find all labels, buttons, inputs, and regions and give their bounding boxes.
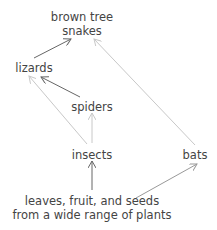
node-label-line: bats: [183, 148, 208, 162]
arrow-spiders-to-lizards: [41, 77, 80, 97]
node-brown-tree-snakes: brown tree snakes: [51, 10, 113, 38]
node-lizards: lizards: [15, 61, 52, 75]
node-label-line: brown tree: [51, 10, 113, 24]
arrow-bats-to-snakes: [94, 39, 195, 145]
node-spiders: spiders: [71, 100, 113, 114]
node-label-line: snakes: [51, 24, 113, 38]
node-label-line: lizards: [15, 61, 52, 75]
node-label-line: leaves, fruit, and seeds: [13, 194, 172, 208]
node-label-line: spiders: [71, 100, 113, 114]
node-insects: insects: [72, 148, 112, 162]
arrow-lizards-to-snakes: [34, 39, 71, 58]
node-label-line: insects: [72, 148, 112, 162]
arrow-plants-to-bats: [136, 164, 197, 198]
node-label-line: from a wide range of plants: [13, 208, 172, 222]
node-bats: bats: [183, 148, 208, 162]
node-plants: leaves, fruit, and seeds from a wide ran…: [13, 194, 172, 222]
